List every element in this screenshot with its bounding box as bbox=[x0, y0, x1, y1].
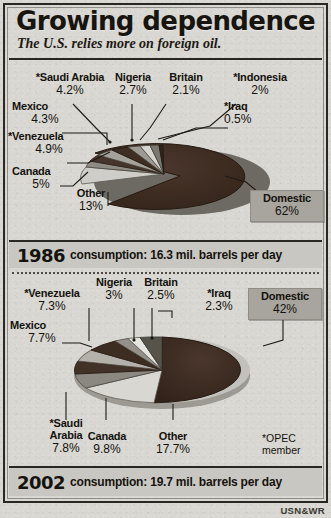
label-2002-mexico: Mexico 7.7% bbox=[10, 320, 72, 345]
label-2002-canada: Canada 9.8% bbox=[78, 431, 136, 456]
label-2002-domestic: Domestic 42% bbox=[248, 288, 322, 320]
source-credit: USN&WR bbox=[280, 505, 325, 516]
label-2002-britain: Britain 2.5% bbox=[136, 277, 186, 302]
opec-footnote-line2: member bbox=[262, 444, 301, 456]
footer-2002-year: 2002 bbox=[17, 472, 65, 493]
opec-footnote-line1: *OPEC bbox=[262, 432, 301, 444]
footer-2002: 2002 consumption: 19.7 mil. barrels per … bbox=[9, 466, 322, 496]
label-2002-venezuela: *Venezuela 7.3% bbox=[12, 288, 92, 313]
label-2002-nigeria: Nigeria 3% bbox=[88, 277, 140, 302]
opec-footnote: *OPEC member bbox=[262, 432, 301, 456]
footer-2002-text: consumption: 19.7 mil. barrels per day bbox=[70, 475, 282, 489]
label-2002-iraq: *Iraq 2.3% bbox=[196, 288, 242, 313]
label-2002-other: Other 17.7% bbox=[144, 431, 202, 456]
infographic-root: Growing dependence The U.S. relies more … bbox=[0, 0, 331, 518]
